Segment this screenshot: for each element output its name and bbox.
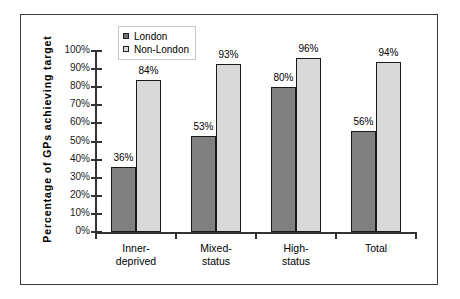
y-axis-tick-mark bbox=[91, 159, 102, 161]
y-axis-tick-mark bbox=[91, 104, 102, 106]
y-axis-tick-mark bbox=[91, 122, 102, 124]
y-axis-tick-label: 0% bbox=[48, 225, 90, 236]
y-axis-tick-labels: 0%10%20%30%40%50%60%70%80%90%100% bbox=[48, 51, 90, 233]
bar-value-label: 84% bbox=[128, 65, 169, 76]
y-axis-tick-mark bbox=[91, 86, 102, 88]
category-label-line: Inner- bbox=[96, 242, 176, 255]
category-label-line: Mixed- bbox=[176, 242, 256, 255]
x-axis-category-label: Inner-deprived bbox=[96, 242, 176, 267]
category-label-line: status bbox=[256, 255, 336, 268]
y-axis-tick-label: 10% bbox=[48, 207, 90, 218]
chart-canvas: Percentage of GPs achieving target 0%10%… bbox=[0, 0, 460, 299]
x-axis-category-label: Mixed-status bbox=[176, 242, 256, 267]
bar-london-1 bbox=[111, 167, 136, 232]
category-label-line: High- bbox=[256, 242, 336, 255]
chart-legend: London Non-London bbox=[118, 26, 196, 60]
y-axis-tick-mark bbox=[91, 213, 102, 215]
legend-item-london: London bbox=[123, 30, 189, 42]
bar-non-london-4 bbox=[376, 62, 401, 232]
bar-value-label: 93% bbox=[208, 49, 249, 60]
y-axis-tick-label: 70% bbox=[48, 98, 90, 109]
y-axis-tick-mark bbox=[91, 50, 102, 52]
y-axis-tick-label: 90% bbox=[48, 62, 90, 73]
x-axis-tick-mark bbox=[175, 232, 177, 239]
bar-london-3 bbox=[271, 87, 296, 232]
bar-non-london-2 bbox=[216, 64, 241, 232]
x-axis-category-label: High-status bbox=[256, 242, 336, 267]
x-axis-tick-mark bbox=[335, 232, 337, 239]
category-label-line: deprived bbox=[96, 255, 176, 268]
y-axis-tick-label: 50% bbox=[48, 135, 90, 146]
bar-value-label: 94% bbox=[368, 47, 409, 58]
legend-item-non-london: Non-London bbox=[123, 43, 189, 55]
y-axis-tick-label: 40% bbox=[48, 153, 90, 164]
bar-value-label: 96% bbox=[288, 43, 329, 54]
category-label-line: Total bbox=[336, 242, 416, 255]
y-axis-tick-label: 80% bbox=[48, 80, 90, 91]
legend-label-non-london: Non-London bbox=[134, 44, 189, 55]
y-axis-tick-mark bbox=[91, 195, 102, 197]
bar-non-london-3 bbox=[296, 58, 321, 232]
plot-area: 36%84%53%93%80%96%56%94% bbox=[96, 51, 416, 232]
legend-swatch-icon-london bbox=[123, 33, 129, 39]
x-axis-category-labels: Inner-deprivedMixed-statusHigh-statusTot… bbox=[96, 242, 416, 272]
y-axis-tick-mark bbox=[91, 177, 102, 179]
x-axis-tick-mark bbox=[95, 232, 97, 239]
bar-london-2 bbox=[191, 136, 216, 232]
bar-non-london-1 bbox=[136, 80, 161, 232]
bar-london-4 bbox=[351, 131, 376, 232]
legend-label-london: London bbox=[134, 31, 167, 42]
y-axis-tick-mark bbox=[91, 141, 102, 143]
y-axis-tick-label: 100% bbox=[48, 44, 90, 55]
y-axis-tick-label: 30% bbox=[48, 171, 90, 182]
y-axis-tick-label: 20% bbox=[48, 189, 90, 200]
legend-swatch-icon-non-london bbox=[123, 46, 129, 52]
y-axis-tick-label: 60% bbox=[48, 116, 90, 127]
category-label-line: status bbox=[176, 255, 256, 268]
x-axis-tick-mark bbox=[255, 232, 257, 239]
x-axis-category-label: Total bbox=[336, 242, 416, 255]
y-axis-tick-mark bbox=[91, 68, 102, 70]
x-axis-tick-mark bbox=[415, 232, 417, 239]
